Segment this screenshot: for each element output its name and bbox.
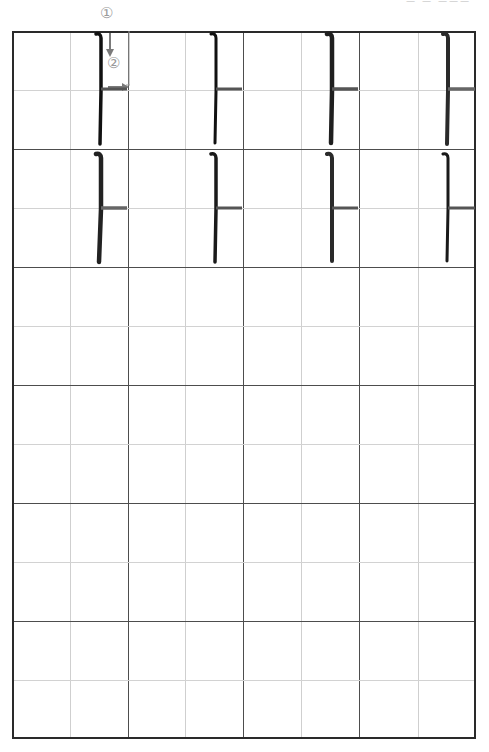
grid-line-major bbox=[14, 503, 474, 504]
model-glyph-icon bbox=[440, 149, 476, 267]
grid-line-major bbox=[14, 385, 474, 386]
grid-line-major bbox=[14, 621, 474, 622]
stroke-order-label-1: ① bbox=[100, 6, 113, 21]
grid-line-minor bbox=[14, 326, 474, 327]
page-header-text: ㅡ ㅡ ㅡㅡㅡ bbox=[331, 0, 471, 4]
model-glyph-icon bbox=[93, 31, 129, 149]
grid-line-minor bbox=[14, 90, 474, 91]
grid-line-major bbox=[14, 267, 474, 268]
grid-line-minor bbox=[14, 208, 474, 209]
model-glyph-icon bbox=[324, 31, 360, 149]
grid-line-minor bbox=[14, 562, 474, 563]
grid-line-minor bbox=[14, 444, 474, 445]
model-glyph-icon bbox=[440, 31, 476, 149]
grid-line-minor bbox=[14, 680, 474, 681]
grid-line-major bbox=[14, 149, 474, 150]
model-glyph-icon bbox=[324, 149, 360, 267]
model-glyph-icon bbox=[208, 31, 244, 149]
model-glyph-icon bbox=[208, 149, 244, 267]
model-glyph-icon bbox=[93, 149, 129, 267]
practice-grid bbox=[12, 31, 476, 739]
